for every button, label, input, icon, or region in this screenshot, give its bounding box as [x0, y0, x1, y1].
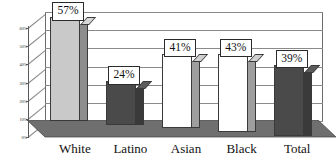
category-label-black: Black: [214, 141, 270, 157]
data-label-asian: 41%: [164, 39, 196, 58]
bar-asian[interactable]: [162, 54, 192, 128]
category-label-asian: Asian: [158, 141, 214, 157]
data-label-black: 43%: [220, 39, 252, 58]
bar-front-face: [162, 54, 192, 128]
bar-front-face: [274, 65, 304, 136]
bars-layer: 57%24%41%43%39%: [0, 0, 336, 163]
category-label-latino: Latino: [103, 141, 159, 157]
bar-latino[interactable]: [106, 81, 136, 125]
bar-front-face: [218, 54, 248, 132]
bar-black[interactable]: [218, 54, 248, 132]
bar-side-face: [304, 72, 312, 136]
bar-total[interactable]: [274, 65, 304, 136]
bar-side-face: [248, 61, 256, 132]
bar-side-face: [136, 88, 144, 125]
category-label-white: White: [47, 141, 103, 157]
category-label-total: Total: [269, 141, 325, 157]
bar-chart: 0%10%20%30%40%50%60% 57%24%41%43%39% Whi…: [0, 0, 336, 163]
bar-white[interactable]: [50, 17, 80, 121]
bar-front-face: [50, 17, 80, 121]
bar-side-face: [192, 61, 200, 128]
bar-side-face: [80, 24, 88, 121]
bar-front-face: [106, 81, 136, 125]
data-label-latino: 24%: [108, 66, 140, 85]
data-label-total: 39%: [276, 50, 308, 69]
data-label-white: 57%: [52, 2, 84, 21]
